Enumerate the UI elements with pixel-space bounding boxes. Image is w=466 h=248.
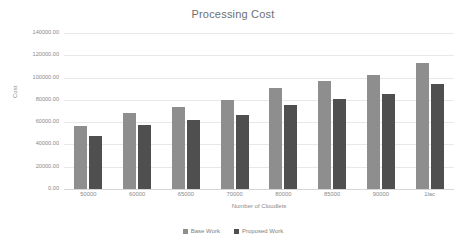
- bar-proposed-work[interactable]: [284, 105, 297, 189]
- y-axis-tick-label: 20000.00: [36, 164, 59, 170]
- x-axis-tick-label: 80000: [259, 191, 308, 197]
- x-axis-tick-label: 1lac: [405, 191, 454, 197]
- bar-base-work[interactable]: [221, 100, 234, 189]
- x-axis-title: Number of Cloudlets: [64, 203, 454, 209]
- bar-group: [113, 33, 162, 189]
- bar-base-work[interactable]: [269, 88, 282, 189]
- bar-base-work[interactable]: [123, 113, 136, 189]
- processing-cost-chart: Processing Cost Cost 0.0020000.0040000.0…: [0, 0, 466, 248]
- legend-swatch-icon: [183, 229, 188, 234]
- y-axis-tick-label: 120000.00: [33, 52, 59, 58]
- chart-legend: Base WorkProposed Work: [0, 228, 466, 234]
- x-axis-tick-label: 70000: [210, 191, 259, 197]
- legend-item-proposed-work[interactable]: Proposed Work: [234, 228, 283, 234]
- bar-base-work[interactable]: [172, 107, 185, 189]
- bar-group: [308, 33, 357, 189]
- bar-base-work[interactable]: [318, 81, 331, 189]
- bar-proposed-work[interactable]: [138, 125, 151, 189]
- bar-base-work[interactable]: [74, 126, 87, 190]
- bar-group: [259, 33, 308, 189]
- bar-proposed-work[interactable]: [89, 136, 102, 189]
- legend-item-base-work[interactable]: Base Work: [183, 228, 220, 234]
- y-axis-tick-label: 40000.00: [36, 142, 59, 148]
- bar-group: [357, 33, 406, 189]
- y-axis-tick-label: 0.00: [48, 186, 59, 192]
- bar-group: [405, 33, 454, 189]
- x-axis-tick-label: 85000: [308, 191, 357, 197]
- gridline: 0.00: [64, 189, 454, 190]
- y-axis-tick-label: 140000.00: [33, 30, 59, 36]
- bar-group: [210, 33, 259, 189]
- bar-proposed-work[interactable]: [187, 120, 200, 189]
- bar-group: [64, 33, 113, 189]
- legend-swatch-icon: [234, 229, 239, 234]
- y-axis-tick-label: 60000.00: [36, 119, 59, 125]
- bar-base-work[interactable]: [367, 75, 380, 189]
- legend-label: Proposed Work: [242, 228, 283, 234]
- bar-base-work[interactable]: [416, 63, 429, 189]
- bar-group: [162, 33, 211, 189]
- bar-proposed-work[interactable]: [431, 84, 444, 189]
- bars-layer: [64, 33, 454, 189]
- plot-area: 0.0020000.0040000.0060000.0080000.001000…: [64, 33, 454, 189]
- y-axis-tick-label: 80000.00: [36, 97, 59, 103]
- chart-title: Processing Cost: [0, 8, 466, 20]
- y-axis-tick-label: 100000.00: [33, 75, 59, 81]
- bar-proposed-work[interactable]: [333, 99, 346, 189]
- y-axis-title: Cost: [12, 86, 18, 98]
- x-axis-tick-label: 50000: [64, 191, 113, 197]
- x-axis-tick-label: 65000: [162, 191, 211, 197]
- bar-proposed-work[interactable]: [382, 94, 395, 189]
- bar-proposed-work[interactable]: [236, 115, 249, 189]
- x-axis-tick-label: 90000: [357, 191, 406, 197]
- legend-label: Base Work: [191, 228, 220, 234]
- x-axis-tick-label: 60000: [113, 191, 162, 197]
- x-axis-tick-labels: 500006000065000700008000085000900001lac: [64, 191, 454, 197]
